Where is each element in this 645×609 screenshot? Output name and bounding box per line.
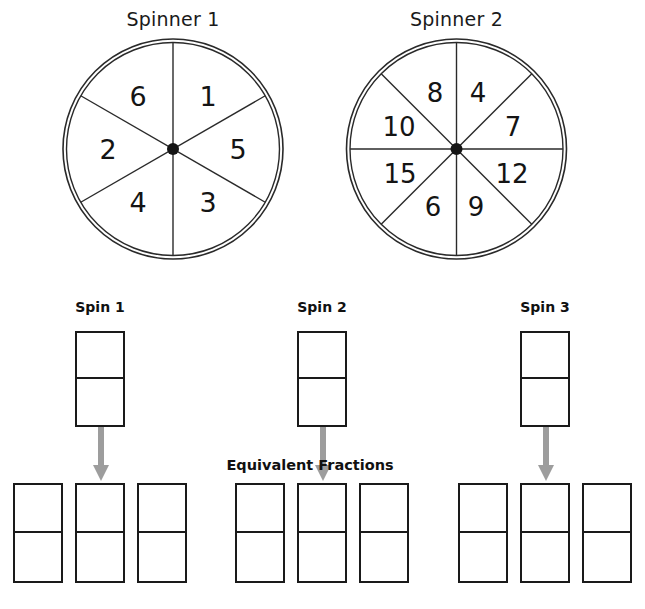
- spin-1-equivalent-2-numerator-cell[interactable]: [77, 485, 123, 533]
- spin-3-equivalent-3-denominator-cell[interactable]: [584, 533, 630, 581]
- spin-1-equivalent-box-1[interactable]: [13, 483, 63, 583]
- spin-1-down-arrow-icon: [92, 427, 110, 483]
- spin-2-fraction-box[interactable]: [297, 331, 347, 427]
- spinner-1-sector-label-3: 3: [199, 187, 216, 218]
- spinner-2-sector-label-15: 15: [383, 159, 416, 189]
- spin-3-equivalent-1-denominator-cell[interactable]: [460, 533, 506, 581]
- spin-1-equivalent-2-denominator-cell[interactable]: [77, 533, 123, 581]
- spinner-2-sector-label-9: 9: [468, 192, 485, 222]
- spinner-1-sector-label-6: 6: [129, 81, 146, 112]
- spin-1-equivalent-box-3[interactable]: [137, 483, 187, 583]
- spinner-2-sector-label-6: 6: [425, 192, 442, 222]
- spin-3-equivalent-2-denominator-cell[interactable]: [522, 533, 568, 581]
- spinner-1-wheel[interactable]: 1 5 3 4 2 6: [62, 36, 284, 262]
- spin-1-equivalent-1-numerator-cell[interactable]: [15, 485, 61, 533]
- spin-2-down-arrow-icon: [314, 427, 332, 483]
- spin-2-equivalent-1-denominator-cell[interactable]: [237, 533, 283, 581]
- spin-1-column: Spin 1: [50, 299, 150, 335]
- spinner-2-sector-label-10: 10: [382, 112, 415, 142]
- spin-2-denominator-cell[interactable]: [299, 379, 345, 425]
- spin-3-equivalent-3-numerator-cell[interactable]: [584, 485, 630, 533]
- spin-1-label: Spin 1: [50, 299, 150, 315]
- spin-1-numerator-cell[interactable]: [77, 333, 123, 379]
- spin-3-label: Spin 3: [495, 299, 595, 315]
- spin-2-equivalent-1-numerator-cell[interactable]: [237, 485, 283, 533]
- spin-1-equivalent-3-numerator-cell[interactable]: [139, 485, 185, 533]
- spin-2-equivalent-box-2[interactable]: [297, 483, 347, 583]
- spin-2-equivalent-3-denominator-cell[interactable]: [361, 533, 407, 581]
- spin-3-equivalent-box-2[interactable]: [520, 483, 570, 583]
- spin-1-equivalent-1-denominator-cell[interactable]: [15, 533, 61, 581]
- spin-2-equivalent-3-numerator-cell[interactable]: [361, 485, 407, 533]
- spin-2-equivalent-group: [235, 483, 410, 583]
- spinner-2-sector-label-8: 8: [427, 78, 444, 108]
- spin-1-equivalent-group: [13, 483, 188, 583]
- spin-1-equivalent-box-2[interactable]: [75, 483, 125, 583]
- spin-3-denominator-cell[interactable]: [522, 379, 568, 425]
- spin-3-equivalent-2-numerator-cell[interactable]: [522, 485, 568, 533]
- spin-3-column: Spin 3: [495, 299, 595, 335]
- spinner-2-sector-label-7: 7: [505, 112, 522, 142]
- spinner-2-block: Spinner 2 4 7 12 9 6 15 10 8: [345, 8, 568, 262]
- spin-1-fraction-box[interactable]: [75, 331, 125, 427]
- spin-2-equivalent-box-3[interactable]: [359, 483, 409, 583]
- spin-2-label: Spin 2: [272, 299, 372, 315]
- spin-2-equivalent-2-numerator-cell[interactable]: [299, 485, 345, 533]
- equivalent-fractions-title: Equivalent Fractions: [220, 457, 400, 473]
- spin-3-down-arrow-icon: [537, 427, 555, 483]
- spin-3-equivalent-box-3[interactable]: [582, 483, 632, 583]
- spin-3-numerator-cell[interactable]: [522, 333, 568, 379]
- spinner-fractions-worksheet: Spinner 1 1 5 3 4 2 6 Spinner 2: [0, 0, 645, 609]
- spinner-2-sector-label-4: 4: [470, 78, 487, 108]
- spin-1-denominator-cell[interactable]: [77, 379, 123, 425]
- spin-2-numerator-cell[interactable]: [299, 333, 345, 379]
- spinner-1-sector-label-2: 2: [99, 134, 116, 165]
- spinner-1-sector-label-5: 5: [229, 134, 246, 165]
- spinner-2-title: Spinner 2: [345, 8, 568, 30]
- spin-2-column: Spin 2: [272, 299, 372, 335]
- spin-3-equivalent-group: [458, 483, 633, 583]
- spinner-1-sector-label-4: 4: [129, 187, 146, 218]
- spin-3-equivalent-1-numerator-cell[interactable]: [460, 485, 506, 533]
- spinner-2-wheel[interactable]: 4 7 12 9 6 15 10 8: [345, 36, 568, 262]
- spinner-2-sector-label-12: 12: [495, 159, 528, 189]
- spinner-1-title: Spinner 1: [62, 8, 284, 30]
- spin-2-equivalent-box-1[interactable]: [235, 483, 285, 583]
- spin-1-equivalent-3-denominator-cell[interactable]: [139, 533, 185, 581]
- spin-3-fraction-box[interactable]: [520, 331, 570, 427]
- spin-3-equivalent-box-1[interactable]: [458, 483, 508, 583]
- spinner-1-block: Spinner 1 1 5 3 4 2 6: [62, 8, 284, 262]
- spinner-1-sector-label-1: 1: [199, 81, 216, 112]
- spin-2-equivalent-2-denominator-cell[interactable]: [299, 533, 345, 581]
